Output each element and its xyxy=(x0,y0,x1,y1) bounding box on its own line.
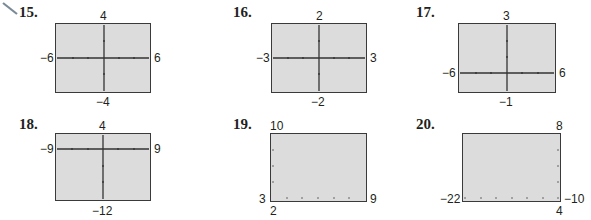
ymax-label-20: 8 xyxy=(556,120,563,132)
ymin-label-20: 4 xyxy=(556,205,563,217)
xmin-label-20: −22 xyxy=(440,193,460,205)
axes-20 xyxy=(0,0,591,220)
xmax-label-20: −10 xyxy=(564,193,584,205)
